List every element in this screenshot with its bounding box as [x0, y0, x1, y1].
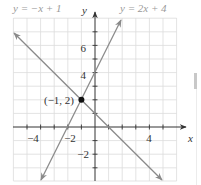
tick-label-x-neg4: −4 [27, 132, 39, 144]
x-axis-label: x [187, 132, 193, 144]
tick-label-y-6: 6 [81, 42, 87, 54]
legend-eq-neg-x-plus-1: y = −x + 1 [13, 2, 62, 14]
tick-label-y-4: 4 [81, 69, 87, 81]
tick-label-x-neg2: −2 [64, 132, 76, 144]
point-label: (−1, 2) [44, 94, 74, 107]
side-scroll-marker [194, 73, 197, 89]
legend-eq-2x-plus-4: y = 2x + 4 [120, 2, 167, 14]
chart: −4 −2 4 6 4 −2 (−1, 2) x y [0, 0, 201, 185]
tick-label-y-neg2: −2 [77, 148, 89, 160]
tick-label-x-4: 4 [146, 132, 152, 144]
side-divider [196, 73, 197, 185]
intersection-point [78, 97, 84, 103]
axes [13, 12, 186, 181]
y-axis-label: y [81, 4, 87, 16]
